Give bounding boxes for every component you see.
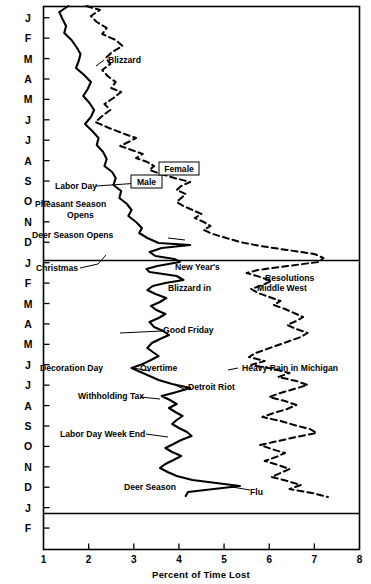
y-tick-label: N — [24, 216, 32, 228]
annotation-label: Heavy Rain in Michigan — [242, 363, 338, 373]
y-tick-label: A — [24, 155, 32, 167]
x-tick-label: 4 — [176, 554, 182, 565]
y-tick-label: J — [25, 114, 31, 126]
y-tick-label: N — [24, 461, 32, 473]
series-label-male: Male — [137, 177, 156, 187]
annotation-label: Good Friday — [163, 325, 214, 335]
y-tick-label: D — [24, 236, 32, 248]
annotation-label: Labor Day — [55, 181, 97, 191]
y-tick-label: O — [24, 195, 32, 207]
y-tick-label: J — [25, 12, 31, 24]
annotation-label: Pheasant Season — [35, 199, 106, 209]
y-tick-label: M — [24, 53, 33, 65]
y-tick-label: A — [24, 318, 32, 330]
y-tick-label: J — [25, 502, 31, 514]
x-tick-label: 2 — [86, 554, 92, 565]
y-tick-label: J — [25, 134, 31, 146]
annotation-label: Resolutions — [265, 273, 314, 283]
y-tick-label: J — [25, 379, 31, 391]
x-tick-label: 8 — [357, 554, 363, 565]
y-tick-label: A — [24, 400, 32, 412]
y-tick-label: O — [24, 440, 32, 452]
y-tick-label: S — [24, 175, 31, 187]
y-tick-label: A — [24, 73, 32, 85]
annotation-label: Withholding Tax — [78, 391, 144, 401]
y-tick-label: J — [25, 359, 31, 371]
y-tick-label: M — [24, 93, 33, 105]
annotation-label: Blizzard — [108, 55, 141, 65]
x-tick-label: 6 — [266, 554, 272, 565]
y-tick-label: M — [24, 338, 33, 350]
y-tick-label: J — [25, 257, 31, 269]
annotation-label: Overtime — [140, 363, 177, 373]
annotation-label: New Year's — [175, 262, 220, 272]
y-tick-label: F — [25, 32, 32, 44]
annotation-label: Flu — [250, 487, 263, 497]
x-tick-label: 1 — [41, 554, 47, 565]
series-label-female: Female — [164, 164, 194, 174]
annotation-label: Opens — [67, 210, 94, 220]
y-tick-label: S — [24, 420, 31, 432]
x-tick-label: 7 — [312, 554, 318, 565]
annotation-label: Christmas — [36, 263, 78, 273]
chart-container: JFMAMJJASONDJFMAMJJASONDJF 12345678 Perc… — [0, 0, 371, 584]
x-tick-label: 5 — [221, 554, 227, 565]
y-tick-label: F — [25, 277, 32, 289]
x-axis-title: Percent of Time Lost — [152, 569, 250, 580]
annotation-label: Detroit Riot — [188, 382, 235, 392]
annotation-label: Decoration Day — [40, 363, 103, 373]
y-tick-label: D — [24, 481, 32, 493]
annotation-label: Middle West — [257, 283, 307, 293]
annotation-label: Labor Day Week End — [60, 429, 145, 439]
annotation-label: Blizzard in — [168, 283, 211, 293]
annotation-label: Deer Season Opens — [32, 230, 113, 240]
x-tick-label: 3 — [131, 554, 137, 565]
annotation-label: Deer Season — [124, 482, 176, 492]
y-tick-label: M — [24, 298, 33, 310]
y-tick-label: F — [25, 522, 32, 534]
absenteeism-line-chart: JFMAMJJASONDJFMAMJJASONDJF 12345678 Perc… — [0, 0, 371, 584]
